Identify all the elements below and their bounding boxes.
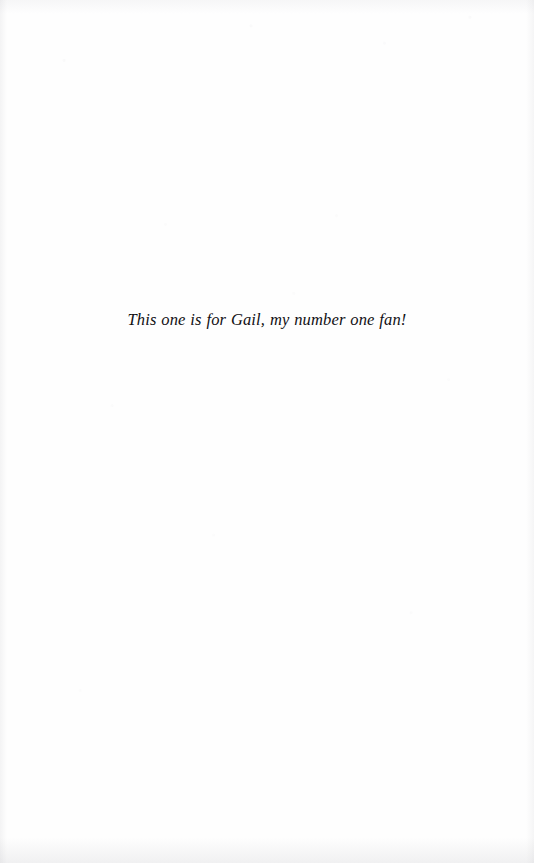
page-edge-shading-left xyxy=(0,0,7,863)
book-page: This one is for Gail, my number one fan! xyxy=(0,0,534,863)
dedication-block: This one is for Gail, my number one fan! xyxy=(0,309,534,331)
page-edge-shading-top xyxy=(0,0,534,14)
paper-grain-texture xyxy=(0,0,534,863)
page-edge-shading-right xyxy=(526,0,534,863)
dedication-text: This one is for Gail, my number one fan! xyxy=(127,309,406,331)
page-edge-shading-bottom xyxy=(0,837,534,863)
